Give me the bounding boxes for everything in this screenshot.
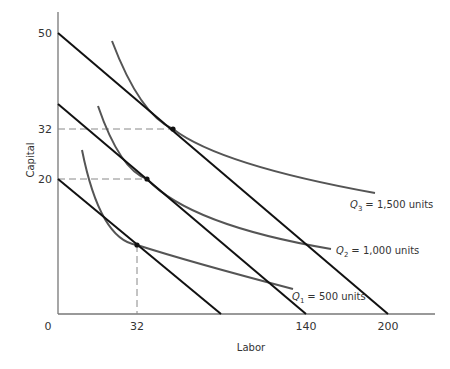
label-q3: Q3= 1,500 units [350, 199, 433, 213]
origin-label: 0 [45, 320, 52, 333]
isoquant-q3 [112, 41, 375, 193]
label-q3-symbol: Q [350, 199, 358, 210]
label-q3-sub: 3 [358, 205, 362, 213]
isoquant-isocost-chart: 50 32 20 0 32 140 200 Labor Capital Q3= … [0, 0, 450, 369]
label-q1: Q1= 500 units [292, 291, 366, 305]
label-q2: Q2= 1,000 units [336, 245, 419, 259]
x-tick-140: 140 [296, 320, 317, 333]
label-q2-symbol: Q [336, 245, 344, 256]
label-q1-symbol: Q [292, 291, 300, 302]
x-tick-200: 200 [378, 320, 399, 333]
tangent-point-q2 [144, 176, 149, 181]
label-q2-sub: 2 [344, 251, 348, 259]
label-q1-sub: 1 [300, 297, 304, 305]
isoquant-q1 [82, 150, 293, 289]
label-q1-value: = 500 units [307, 291, 365, 302]
label-q3-value: = 1,500 units [365, 199, 433, 210]
isocost-low-line [58, 179, 221, 314]
y-axis-label: Capital [25, 142, 36, 177]
y-tick-50: 50 [38, 27, 52, 40]
x-tick-32: 32 [130, 320, 144, 333]
y-tick-20: 20 [38, 173, 52, 186]
tangent-point-q1 [134, 242, 139, 247]
label-q2-value: = 1,000 units [351, 245, 419, 256]
x-axis-label: Labor [237, 342, 266, 353]
isocost-high-line [58, 33, 388, 314]
y-tick-32: 32 [38, 123, 52, 136]
tangent-point-q3 [170, 126, 175, 131]
